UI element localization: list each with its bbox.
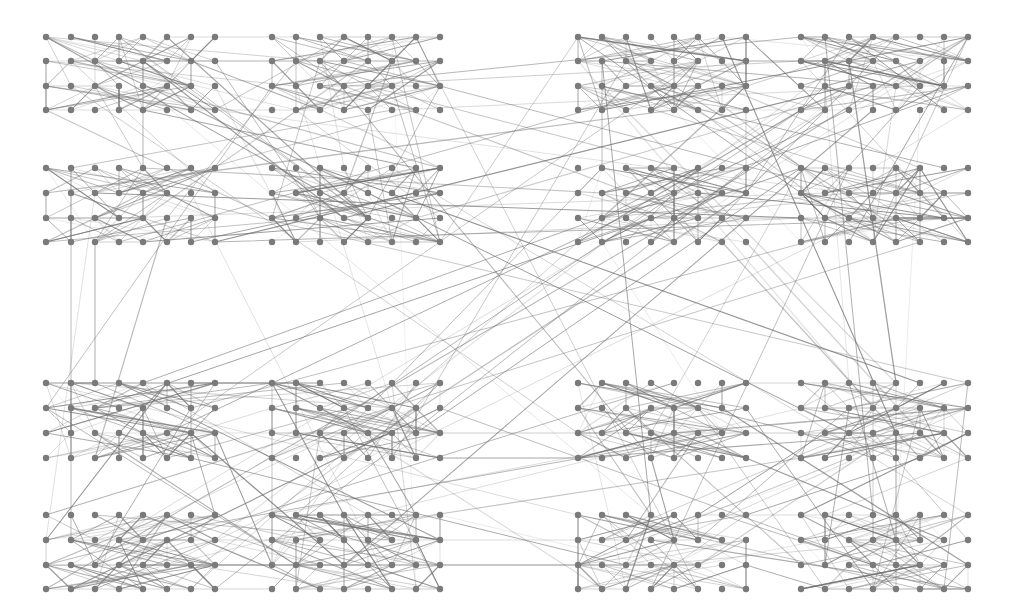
graph-node xyxy=(575,455,581,461)
graph-node xyxy=(695,239,701,245)
graph-node xyxy=(743,537,749,543)
graph-node xyxy=(695,190,701,196)
graph-node xyxy=(116,107,122,113)
graph-node xyxy=(822,405,828,411)
graph-node xyxy=(917,380,923,386)
graph-node xyxy=(575,34,581,40)
graph-node xyxy=(140,215,146,221)
graph-node xyxy=(719,455,725,461)
graph-node xyxy=(413,190,419,196)
graph-node xyxy=(389,215,395,221)
graph-node xyxy=(575,380,581,386)
graph-node xyxy=(941,239,947,245)
graph-node xyxy=(68,562,74,568)
graph-edge xyxy=(95,218,167,458)
graph-node xyxy=(389,107,395,113)
graph-node xyxy=(43,455,49,461)
graph-node xyxy=(164,455,170,461)
graph-node xyxy=(188,107,194,113)
graph-node xyxy=(293,562,299,568)
graph-node xyxy=(719,239,725,245)
graph-node xyxy=(965,380,971,386)
graph-node xyxy=(648,107,654,113)
graph-node xyxy=(623,83,629,89)
graph-node xyxy=(917,405,923,411)
graph-node xyxy=(365,512,371,518)
graph-node xyxy=(917,537,923,543)
graph-node xyxy=(917,34,923,40)
graph-node xyxy=(365,430,371,436)
graph-node xyxy=(941,107,947,113)
graph-node xyxy=(648,512,654,518)
graph-node xyxy=(575,405,581,411)
graph-node xyxy=(341,562,347,568)
graph-node xyxy=(599,455,605,461)
graph-node xyxy=(822,107,828,113)
graph-node xyxy=(212,190,218,196)
graph-node xyxy=(870,562,876,568)
graph-node xyxy=(893,58,899,64)
graph-node xyxy=(798,83,804,89)
graph-node xyxy=(575,83,581,89)
graph-node xyxy=(116,58,122,64)
graph-edge xyxy=(602,383,801,433)
graph-node xyxy=(92,380,98,386)
graph-node xyxy=(341,586,347,592)
graph-node xyxy=(269,562,275,568)
graph-node xyxy=(437,455,443,461)
graph-node xyxy=(648,190,654,196)
graph-node xyxy=(212,34,218,40)
graph-node xyxy=(798,34,804,40)
graph-node xyxy=(341,190,347,196)
graph-node xyxy=(43,430,49,436)
graph-node xyxy=(140,190,146,196)
graph-node xyxy=(188,190,194,196)
graph-edge xyxy=(191,193,392,589)
graph-node xyxy=(846,190,852,196)
graph-node xyxy=(798,430,804,436)
graph-node xyxy=(164,380,170,386)
graph-node xyxy=(870,215,876,221)
graph-node xyxy=(437,586,443,592)
graph-node xyxy=(92,586,98,592)
graph-node xyxy=(695,537,701,543)
graph-node xyxy=(317,562,323,568)
graph-node xyxy=(798,586,804,592)
graph-node xyxy=(743,562,749,568)
graph-node xyxy=(965,215,971,221)
graph-node xyxy=(671,215,677,221)
graph-node xyxy=(43,562,49,568)
graph-node xyxy=(623,165,629,171)
graph-node xyxy=(623,512,629,518)
graph-node xyxy=(648,83,654,89)
graph-node xyxy=(293,190,299,196)
graph-node xyxy=(413,430,419,436)
graph-node xyxy=(599,562,605,568)
graph-node xyxy=(293,586,299,592)
graph-node xyxy=(575,239,581,245)
graph-node xyxy=(43,58,49,64)
graph-node xyxy=(341,380,347,386)
graph-node xyxy=(365,405,371,411)
graph-node xyxy=(317,215,323,221)
graph-node xyxy=(846,215,852,221)
graph-node xyxy=(341,34,347,40)
graph-edge xyxy=(578,86,920,193)
graph-node xyxy=(695,34,701,40)
graph-node xyxy=(941,562,947,568)
graph-node xyxy=(599,405,605,411)
graph-node xyxy=(43,380,49,386)
graph-node xyxy=(389,34,395,40)
graph-node xyxy=(317,239,323,245)
graph-node xyxy=(648,58,654,64)
graph-node xyxy=(798,512,804,518)
graph-node xyxy=(212,58,218,64)
graph-node xyxy=(695,165,701,171)
graph-edge xyxy=(46,110,674,193)
graph-node xyxy=(870,83,876,89)
graph-node xyxy=(965,537,971,543)
graph-node xyxy=(846,83,852,89)
graph-node xyxy=(822,455,828,461)
graph-node xyxy=(293,239,299,245)
graph-node xyxy=(293,165,299,171)
